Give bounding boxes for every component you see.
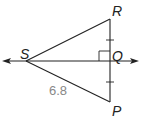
point-label-s: S (20, 47, 29, 61)
point-label-r: R (112, 4, 122, 18)
segment-sp (26, 61, 110, 102)
point-label-q: Q (112, 49, 123, 63)
segment-sr (26, 19, 110, 61)
right-angle-mark-icon (99, 51, 110, 61)
measurement-sp: 6.8 (49, 84, 67, 97)
point-label-p: P (112, 104, 121, 117)
